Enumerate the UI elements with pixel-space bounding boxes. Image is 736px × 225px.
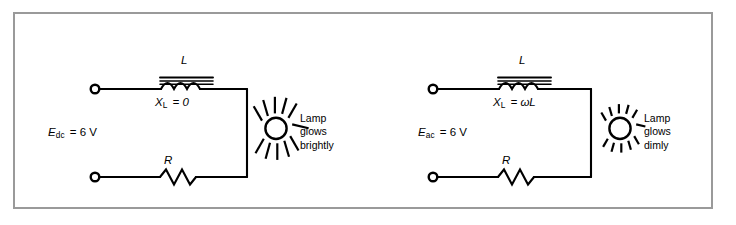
- ac-resistor-label: R: [502, 154, 510, 166]
- ac-source-label: Eac= 6 V: [418, 126, 467, 140]
- ac-lamp-caption-line2: glows: [644, 125, 671, 138]
- dc-inductor-label: L: [181, 54, 187, 66]
- dc-lamp-caption-line2: glows: [300, 125, 334, 138]
- dc-bottom-terminal: [91, 173, 100, 182]
- dc-lamp-caption: Lamp glows brightly: [300, 112, 334, 152]
- ac-source-sub: ac: [426, 131, 435, 140]
- dc-reactance-value: = 0: [172, 96, 188, 108]
- ac-resistor: [498, 170, 534, 185]
- figure-root: L XL= 0 Edc= 6 V R Lamp glows brightly: [0, 0, 736, 225]
- dc-lamp-caption-line1: Lamp: [300, 112, 334, 125]
- ac-bottom-terminal: [429, 173, 438, 182]
- dc-resistor-label: R: [164, 154, 172, 166]
- ac-lamp-caption-line3: dimly: [644, 139, 671, 152]
- ac-reactance-sub: L: [501, 101, 506, 110]
- dc-source-symbol: E: [48, 126, 56, 138]
- dc-source-sub: dc: [56, 131, 65, 140]
- ac-lamp-bulb: [609, 118, 630, 139]
- dc-reactance-sub: L: [163, 101, 168, 110]
- dc-source-value: = 6 V: [70, 126, 97, 138]
- dc-lamp-bulb: [265, 118, 286, 139]
- figure-frame: L XL= 0 Edc= 6 V R Lamp glows brightly: [13, 12, 713, 209]
- dc-source-label: Edc= 6 V: [48, 126, 97, 140]
- ac-reactance-label: XL= ωL: [493, 96, 536, 111]
- ac-source-symbol: E: [418, 126, 426, 138]
- ac-lamp-caption-line1: Lamp: [644, 112, 671, 125]
- dc-reactance-label: XL= 0: [155, 96, 189, 111]
- ac-top-terminal: [429, 85, 438, 94]
- ac-lamp: [601, 104, 645, 153]
- ac-reactance-value: = ωL: [510, 96, 535, 108]
- dc-top-terminal: [91, 85, 100, 94]
- ac-lamp-caption: Lamp glows dimly: [644, 112, 671, 152]
- dc-reactance-symbol: X: [155, 96, 163, 108]
- dc-resistor: [160, 170, 196, 185]
- ac-reactance-symbol: X: [493, 96, 501, 108]
- dc-lamp-caption-line3: brightly: [300, 139, 334, 152]
- ac-source-value: = 6 V: [440, 126, 467, 138]
- ac-inductor-label: L: [519, 54, 525, 66]
